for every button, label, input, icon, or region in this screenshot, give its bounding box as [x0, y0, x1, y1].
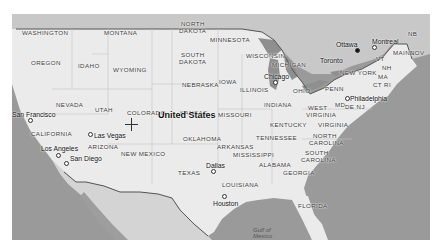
state-label: INDIANA: [264, 102, 292, 108]
city-label[interactable]: San Francisco: [12, 112, 55, 119]
city-label[interactable]: Philadelphia: [350, 96, 387, 103]
state-label: OHIO: [293, 88, 310, 94]
state-label: VIRGINIA: [306, 112, 336, 118]
state-label: MD: [335, 102, 345, 108]
city-marker-icon[interactable]: [222, 194, 227, 199]
state-label: MA: [378, 74, 388, 80]
city-marker-icon[interactable]: [28, 118, 33, 123]
state-label: LOUISIANA: [222, 182, 259, 188]
state-label: CALIFORNIA: [31, 131, 72, 137]
state-label: ALABAMA: [259, 162, 291, 168]
state-label: DAKOTA: [179, 59, 206, 65]
state-label: WISCONSIN: [246, 53, 285, 59]
city-label[interactable]: San Diego: [70, 156, 102, 163]
state-label: IDAHO: [78, 63, 100, 69]
water-label: Mexico: [253, 233, 272, 239]
state-label: WASHINGTON: [22, 30, 68, 36]
state-label: MICHIGAN: [272, 62, 306, 68]
state-label: TENNESSEE: [256, 135, 297, 141]
state-label: NOV: [410, 50, 425, 56]
city-label[interactable]: Houston: [213, 201, 238, 208]
state-label: OKLAHOMA: [183, 136, 221, 142]
state-label: NEBRASKA: [182, 82, 219, 88]
city-label[interactable]: Toronto: [320, 58, 343, 65]
state-label: NEVADA: [56, 102, 83, 108]
city-label[interactable]: Dallas: [206, 163, 225, 170]
city-marker-icon[interactable]: [64, 161, 69, 166]
state-label: ARIZONA: [88, 144, 118, 150]
crosshair-icon: [125, 118, 138, 131]
city-marker-icon[interactable]: [345, 96, 350, 101]
state-label: DAKOTA: [179, 28, 206, 34]
city-marker-icon[interactable]: [372, 45, 377, 50]
state-label: IOWA: [219, 79, 237, 85]
state-label: KENTUCKY: [270, 122, 307, 128]
state-label: NEW MEXICO: [121, 151, 166, 157]
state-label: MISSISSIPPI: [233, 152, 274, 158]
country-label: United States: [158, 111, 216, 120]
city-label[interactable]: Los Angeles: [41, 146, 78, 153]
city-marker-icon[interactable]: [355, 48, 360, 53]
state-label: CT RI: [373, 82, 391, 88]
state-label: VT: [376, 56, 385, 62]
city-marker-icon[interactable]: [211, 169, 216, 174]
state-label: DE NJ: [345, 104, 365, 110]
city-marker-icon[interactable]: [273, 80, 278, 85]
city-label[interactable]: Las Vegas: [94, 133, 126, 140]
state-label: VIRGINIA: [318, 122, 348, 128]
state-label: GEORGIA: [283, 170, 315, 176]
city-label[interactable]: Ottawa: [336, 42, 358, 49]
state-label: ARKANSAS: [217, 144, 254, 150]
state-label: FLORIDA: [298, 203, 328, 209]
state-label: UTAH: [95, 107, 113, 113]
state-label: NH: [382, 65, 392, 71]
state-label: MINNESOTA: [210, 37, 250, 43]
state-label: CAROLINA: [309, 140, 344, 146]
state-label: MONTANA: [104, 30, 137, 36]
city-marker-icon[interactable]: [88, 132, 93, 137]
state-label: MISSOURI: [218, 112, 252, 118]
state-label: WYOMING: [113, 67, 147, 73]
state-label: ILLINOIS: [240, 87, 269, 93]
state-label: OREGON: [31, 60, 61, 66]
state-label: TEXAS: [178, 170, 200, 176]
state-label: NB: [408, 31, 417, 37]
state-label: NEW YORK: [340, 70, 377, 76]
city-marker-icon[interactable]: [56, 153, 61, 158]
map-view[interactable]: WASHINGTONMONTANANORTHDAKOTAMINNESOTAORE…: [12, 14, 430, 240]
state-label: PENN: [325, 86, 344, 92]
state-label: CAROLINA: [301, 157, 336, 163]
